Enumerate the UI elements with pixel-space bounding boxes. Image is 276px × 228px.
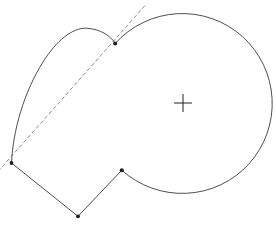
geometry-canvas	[0, 0, 276, 228]
marker-bottom-vertex	[76, 214, 80, 218]
marker-left-cusp	[10, 161, 14, 165]
geometry-figure	[0, 0, 276, 228]
marker-top-cusp	[113, 41, 117, 45]
marker-right-vertex	[120, 168, 124, 172]
figure-background	[0, 0, 276, 228]
